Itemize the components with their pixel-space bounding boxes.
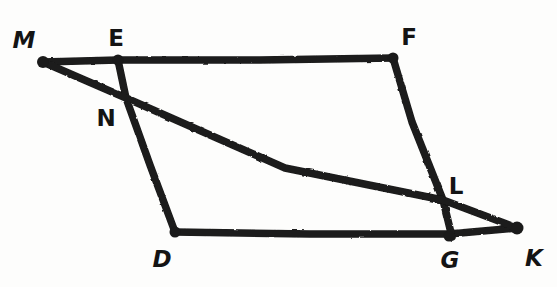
vertex-label-N: N (96, 107, 115, 130)
vertex-label-K: K (525, 247, 543, 270)
vertex-dot-M (37, 56, 49, 68)
segment-M-F-top (43, 58, 393, 62)
vertex-label-F: F (401, 26, 417, 49)
segment-F-G-right (393, 58, 452, 237)
geometry-figure: M E F N L D G K (0, 0, 557, 287)
vertex-dot-K (511, 222, 524, 235)
vertex-label-M: M (13, 29, 36, 52)
segment-E-D-left (118, 60, 175, 232)
vertex-dot-E (113, 55, 124, 66)
vertex-label-G: G (441, 249, 460, 272)
vertex-dot-D (170, 227, 181, 238)
segment-D-K-bottom (175, 228, 517, 234)
vertex-label-L: L (449, 175, 464, 198)
vertex-dot-G (444, 231, 455, 242)
vertex-dot-F (388, 53, 399, 64)
vertex-label-D: D (152, 248, 171, 271)
segment-M-K-diagonal (43, 62, 517, 228)
figure-canvas (0, 0, 557, 287)
vertex-label-E: E (108, 27, 124, 50)
